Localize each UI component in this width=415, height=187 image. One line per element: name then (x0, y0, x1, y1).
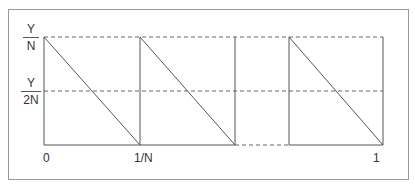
outer-frame (9, 10, 409, 180)
y-label-y-over-2n: Y 2N (20, 77, 42, 106)
sawtooth-diagram (0, 0, 415, 187)
x-label-origin: 0 (43, 152, 50, 164)
y-label-y-over-n: Y N (22, 23, 40, 52)
x-label-1-over-n: 1/N (134, 152, 153, 164)
y-label-numerator: Y (22, 23, 40, 37)
y-label-numerator: Y (20, 77, 42, 91)
y-label-denominator: N (22, 38, 40, 52)
x-label-one: 1 (373, 152, 380, 164)
y-label-denominator: 2N (20, 92, 42, 106)
